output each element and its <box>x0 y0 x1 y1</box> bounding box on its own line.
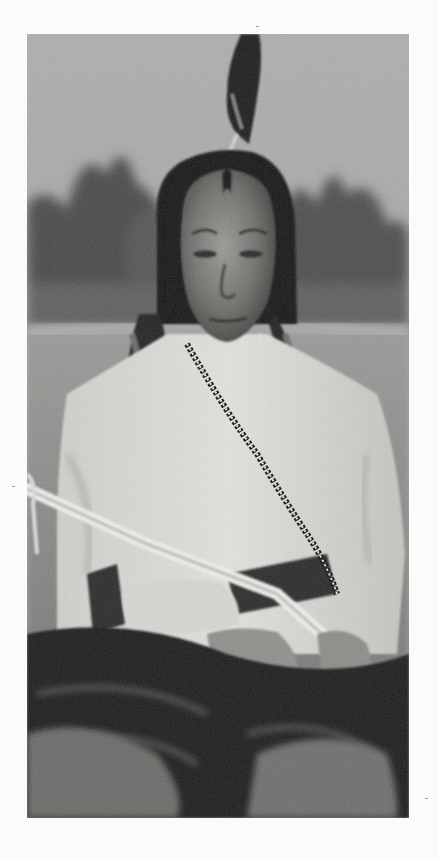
paper-speck <box>256 26 259 27</box>
portrait-image <box>27 34 409 818</box>
portrait-photo <box>27 34 409 818</box>
paper-speck <box>425 798 428 799</box>
paper-speck <box>12 486 15 487</box>
